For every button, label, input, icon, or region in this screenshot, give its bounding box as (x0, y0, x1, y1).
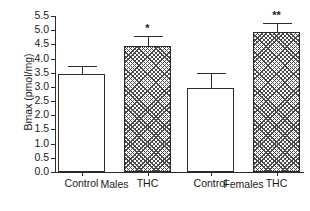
y-tick-label: 5.5 (34, 9, 49, 21)
y-tick-mark (51, 101, 55, 102)
x-axis-line (55, 172, 304, 173)
y-tick-label: 5.0 (34, 23, 49, 35)
y-tick-mark (51, 115, 55, 116)
y-tick-label: 0.0 (34, 165, 49, 177)
y-axis-line (55, 16, 56, 173)
y-tick-label: 2.0 (34, 108, 49, 120)
y-tick-label: 1.0 (34, 137, 49, 149)
chart-figure: Bmax (pmol/mg) 5.55.04.54.03.53.02.52.01… (0, 0, 310, 211)
group-label-males: Males (75, 178, 155, 190)
y-tick-label: 2.5 (34, 94, 49, 106)
y-axis-title: Bmax (pmol/mg) (22, 17, 34, 167)
error-bar-cap (134, 36, 163, 37)
error-bar-cap (197, 73, 226, 74)
y-tick-mark (51, 87, 55, 88)
error-bar-cap (68, 66, 97, 67)
plot-area: 5.55.04.54.03.53.02.52.01.51.00.50.0 ***… (55, 16, 304, 172)
y-tick-mark (51, 16, 55, 17)
y-tick-mark (51, 172, 55, 173)
bar-males-thc (124, 46, 171, 172)
y-tick-mark (51, 59, 55, 60)
y-tick-label: 1.5 (34, 122, 49, 134)
y-tick-mark (51, 129, 55, 130)
x-tick-mark (211, 172, 212, 176)
bar-females-control (187, 88, 234, 172)
significance-marker: * (128, 23, 168, 34)
x-tick-mark (82, 172, 83, 176)
bar-females-thc (253, 32, 300, 172)
y-tick-label: 3.0 (34, 80, 49, 92)
error-bar-stem (277, 23, 278, 32)
x-tick-mark (277, 172, 278, 176)
y-tick-label: 4.0 (34, 52, 49, 64)
y-tick-label: 0.5 (34, 151, 49, 163)
x-tick-mark (148, 172, 149, 176)
error-bar-stem (211, 73, 212, 89)
y-tick-label: 3.5 (34, 66, 49, 78)
error-bar-stem (82, 66, 83, 75)
y-tick-mark (51, 144, 55, 145)
significance-marker: ** (257, 10, 297, 21)
y-tick-mark (51, 158, 55, 159)
y-tick-mark (51, 30, 55, 31)
error-bar-stem (148, 36, 149, 46)
y-tick-mark (51, 44, 55, 45)
bar-males-control (58, 74, 105, 172)
error-bar-cap (263, 23, 292, 24)
y-tick-label: 4.5 (34, 37, 49, 49)
y-tick-mark (51, 73, 55, 74)
group-label-females: Females (204, 178, 284, 190)
